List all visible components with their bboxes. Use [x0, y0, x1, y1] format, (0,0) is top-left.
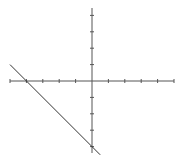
plotted-line [10, 65, 100, 155]
axes [10, 8, 174, 153]
series-line [10, 65, 100, 155]
coordinate-plane [0, 0, 175, 160]
